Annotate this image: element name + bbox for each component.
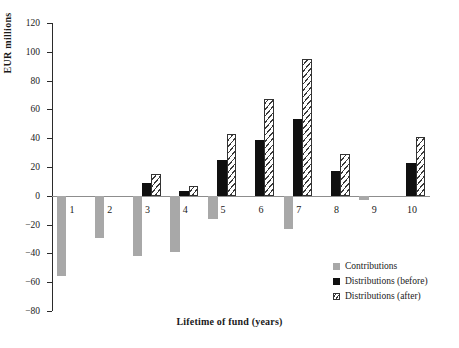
x-tick-label-10: 10 <box>407 204 417 215</box>
bar-distributions-before-year-7[interactable] <box>293 119 303 195</box>
x-tick-label-9: 9 <box>372 204 377 215</box>
bar-contributions-year-7[interactable] <box>284 196 294 229</box>
swatch-black-solid-icon <box>333 278 340 285</box>
x-tick-label-8: 8 <box>334 204 339 215</box>
bar-contributions-year-9[interactable] <box>359 196 369 200</box>
bar-distributions-before-year-8[interactable] <box>331 171 341 195</box>
chart-legend: Contributions Distributions (before) Dis… <box>333 259 428 304</box>
y-tick-label: 100 <box>26 47 40 57</box>
legend-label-distributions-before: Distributions (before) <box>345 274 428 289</box>
bar-distributions-before-year-10[interactable] <box>406 163 416 196</box>
bar-chart: EUR millions Lifetime of fund (years) 12… <box>0 0 459 348</box>
legend-label-distributions-after: Distributions (after) <box>345 289 421 304</box>
y-tick-label: 0 <box>35 191 40 201</box>
bar-contributions-year-5[interactable] <box>208 196 218 219</box>
x-tick-label-1: 1 <box>69 204 74 215</box>
x-axis-label: Lifetime of fund (years) <box>0 316 459 327</box>
y-tick: −20 <box>47 225 52 226</box>
bar-contributions-year-1[interactable] <box>57 196 67 277</box>
bar-distributions-before-year-6[interactable] <box>255 140 265 196</box>
bar-contributions-year-3[interactable] <box>133 196 143 256</box>
x-tick-label-5: 5 <box>221 204 226 215</box>
y-axis-label: EUR millions <box>2 0 13 103</box>
bar-distributions-after-year-4[interactable] <box>189 186 199 196</box>
y-tick-label: 40 <box>31 133 41 143</box>
y-tick-label: −20 <box>25 220 40 230</box>
y-tick-label: −80 <box>25 306 40 316</box>
y-axis-line <box>52 23 53 311</box>
y-tick: 100 <box>47 52 52 53</box>
y-tick-label: −40 <box>25 248 40 258</box>
swatch-hatched-icon <box>333 293 340 300</box>
legend-item-contributions: Contributions <box>333 259 428 274</box>
y-tick-label: 120 <box>26 18 40 28</box>
x-tick-label-7: 7 <box>296 204 301 215</box>
bar-distributions-after-year-8[interactable] <box>340 154 350 196</box>
y-tick: 80 <box>47 81 52 82</box>
bar-distributions-before-year-3[interactable] <box>142 183 152 196</box>
x-tick-label-3: 3 <box>145 204 150 215</box>
bar-distributions-after-year-6[interactable] <box>264 99 274 195</box>
bar-distributions-after-year-3[interactable] <box>151 174 161 196</box>
y-tick: 60 <box>47 109 52 110</box>
x-tick-label-6: 6 <box>258 204 263 215</box>
y-tick: −60 <box>47 282 52 283</box>
y-tick: −80 <box>47 311 52 312</box>
y-tick-label: 20 <box>31 162 41 172</box>
bar-distributions-after-year-7[interactable] <box>302 59 312 196</box>
bar-contributions-year-2[interactable] <box>95 196 105 238</box>
y-tick: 120 <box>47 23 52 24</box>
y-tick-label: −60 <box>25 277 40 287</box>
bar-contributions-year-4[interactable] <box>170 196 180 252</box>
x-tick-label-2: 2 <box>107 204 112 215</box>
y-tick: −40 <box>47 253 52 254</box>
y-tick: 40 <box>47 138 52 139</box>
legend-label-contributions: Contributions <box>345 259 397 274</box>
bar-distributions-after-year-10[interactable] <box>416 137 426 196</box>
zero-baseline <box>52 196 430 197</box>
x-tick-label-4: 4 <box>183 204 188 215</box>
swatch-gray-solid-icon <box>333 263 340 270</box>
bar-distributions-before-year-5[interactable] <box>217 160 227 196</box>
bar-distributions-after-year-5[interactable] <box>227 134 237 196</box>
y-tick-label: 60 <box>31 104 41 114</box>
legend-item-distributions-before: Distributions (before) <box>333 274 428 289</box>
legend-item-distributions-after: Distributions (after) <box>333 289 428 304</box>
y-tick-label: 80 <box>31 76 41 86</box>
y-tick: 20 <box>47 167 52 168</box>
bar-distributions-before-year-4[interactable] <box>179 191 189 195</box>
